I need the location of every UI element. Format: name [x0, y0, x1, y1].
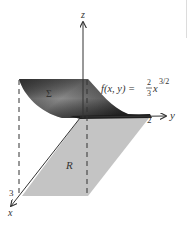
z-axis-label: z — [80, 9, 85, 20]
y-axis-label: y — [169, 109, 175, 121]
x-tick-label: 3 — [9, 188, 14, 198]
formula-frac-num: 2 — [147, 78, 151, 87]
y-tick-label: 2 — [147, 115, 152, 125]
region-r — [22, 118, 149, 196]
region-label: R — [65, 159, 73, 171]
surface-label: Σ — [46, 88, 52, 99]
formula-var: x — [152, 83, 158, 94]
x-axis-label: x — [7, 207, 13, 218]
surface-diagram: z y x 2 3 Σ R f(x, y) = 2 3 x 3/2 — [0, 0, 189, 230]
formula-exponent: 3/2 — [159, 77, 169, 86]
formula-lhs: f(x, y) = — [101, 83, 135, 95]
surface-formula: f(x, y) = 2 3 x 3/2 — [101, 77, 169, 98]
formula-frac-den: 3 — [147, 89, 151, 98]
